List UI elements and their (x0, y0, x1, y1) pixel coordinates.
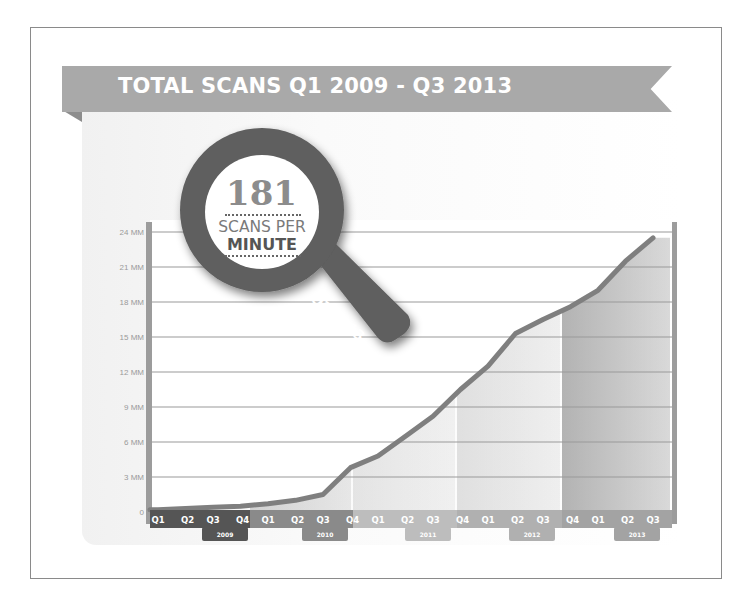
callout-line1: SCANS PER (212, 218, 312, 236)
dotted-divider (225, 214, 301, 216)
magnifier-icon (0, 0, 749, 616)
callout-number: 181 (226, 173, 296, 213)
callout-line2: MINUTE (212, 235, 312, 254)
dotted-divider (225, 255, 301, 257)
